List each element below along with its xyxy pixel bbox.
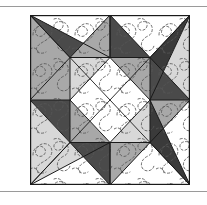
figure-container (0, 7, 207, 191)
page-container (0, 0, 207, 205)
pieced-star-quilt-block (30, 15, 190, 185)
bottom-horizontal-rule (0, 191, 207, 192)
